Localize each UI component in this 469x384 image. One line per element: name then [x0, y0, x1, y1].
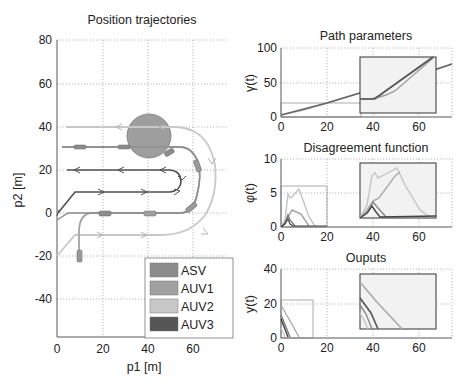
- svg-text:60: 60: [412, 230, 426, 244]
- svg-text:20: 20: [96, 342, 110, 356]
- legend: ASV AUV1 AUV2 AUV3: [145, 258, 233, 338]
- svg-text:0: 0: [278, 341, 285, 355]
- legend-label-auv2: AUV2: [181, 300, 214, 314]
- left-plot-title: Position trajectories: [87, 13, 196, 27]
- svg-text:20: 20: [39, 163, 53, 177]
- legend-label-asv: ASV: [181, 264, 207, 278]
- position-trajectories-plot: Position trajectories 80 60 40 20 0 -20 …: [11, 13, 233, 374]
- bot-y-label: y(t): [243, 295, 257, 313]
- svg-text:0: 0: [45, 206, 52, 220]
- svg-text:20: 20: [320, 341, 334, 355]
- figure: Position trajectories 80 60 40 20 0 -20 …: [0, 0, 469, 384]
- svg-text:60: 60: [39, 77, 53, 91]
- top-y-label: γ(t): [243, 74, 257, 92]
- mid-plot-title: Disagreement function: [303, 141, 428, 155]
- top-plot-title: Path parameters: [320, 29, 412, 43]
- svg-text:40: 40: [39, 120, 53, 134]
- svg-text:0: 0: [270, 220, 277, 234]
- svg-text:40: 40: [141, 342, 155, 356]
- svg-text:60: 60: [412, 341, 426, 355]
- outputs-plot: Ouputs 40 20 0 0 20 40 60 y(t): [243, 251, 452, 355]
- legend-swatch-auv1: [150, 281, 178, 295]
- svg-text:-20: -20: [35, 249, 53, 263]
- left-x-label: p1 [m]: [127, 360, 162, 374]
- vehicle-marker-icons: [74, 145, 202, 262]
- auv1-trajectory: [62, 147, 200, 256]
- asv-trajectory: [57, 147, 200, 220]
- mid-y-label: φ(t): [243, 183, 257, 203]
- svg-text:40: 40: [366, 120, 380, 134]
- legend-label-auv3: AUV3: [181, 318, 214, 332]
- legend-swatch-asv: [150, 263, 178, 277]
- svg-text:0: 0: [270, 331, 277, 345]
- bot-inset: [360, 274, 436, 329]
- disagreement-function-plot: Disagreement function 10 5 0 0 20 40 60 …: [243, 141, 452, 244]
- svg-text:100: 100: [257, 41, 277, 55]
- svg-text:5: 5: [270, 186, 277, 200]
- svg-text:40: 40: [264, 262, 278, 276]
- left-y-label: p2 [m]: [11, 173, 25, 208]
- auv3-trajectory: [58, 170, 181, 213]
- svg-text:40: 40: [366, 230, 380, 244]
- svg-text:80: 80: [39, 33, 53, 47]
- svg-text:20: 20: [320, 230, 334, 244]
- svg-text:40: 40: [366, 341, 380, 355]
- svg-text:20: 20: [320, 120, 334, 134]
- legend-label-auv1: AUV1: [181, 282, 214, 296]
- legend-swatch-auv2: [150, 299, 178, 313]
- svg-text:0: 0: [270, 110, 277, 124]
- svg-text:60: 60: [186, 342, 200, 356]
- svg-text:10: 10: [264, 152, 278, 166]
- svg-text:0: 0: [54, 342, 61, 356]
- bot-plot-title: Ouputs: [346, 251, 386, 265]
- mid-zoom-region: [281, 186, 327, 227]
- obstacle-circle: [127, 114, 171, 158]
- svg-text:0: 0: [278, 230, 285, 244]
- svg-text:60: 60: [412, 120, 426, 134]
- left-y-ticks: 80 60 40 20 0 -20 -40: [35, 33, 53, 306]
- legend-swatch-auv3: [150, 317, 178, 331]
- svg-text:0: 0: [278, 120, 285, 134]
- svg-text:-40: -40: [35, 292, 53, 306]
- svg-text:50: 50: [264, 76, 278, 90]
- path-parameters-plot: Path parameters 100 50 0 0 20 40 60 γ(t): [243, 29, 452, 134]
- svg-text:20: 20: [264, 297, 278, 311]
- left-x-ticks: 0 20 40 60: [54, 342, 200, 356]
